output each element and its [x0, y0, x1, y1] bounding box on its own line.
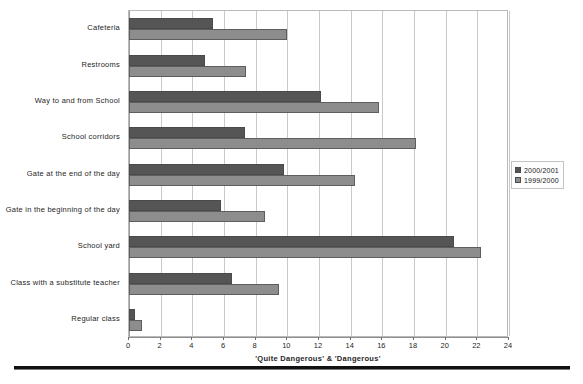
bar [129, 91, 321, 102]
legend-label: 1999/2000 [524, 177, 559, 184]
x-axis-tick-mark [413, 337, 414, 340]
y-axis-label: School corridors [0, 132, 120, 141]
x-axis-tick-label: 20 [435, 341, 455, 350]
x-axis-tick-label: 2 [150, 341, 170, 350]
bar-group [129, 18, 507, 40]
bar [129, 175, 355, 186]
x-axis-tick-label: 6 [213, 341, 233, 350]
bar [129, 164, 284, 175]
x-axis-tick-mark [223, 337, 224, 340]
x-axis-tick-mark [476, 337, 477, 340]
y-axis-label: Way to and from School [0, 96, 120, 105]
bar [129, 211, 265, 222]
legend-swatch-icon [515, 167, 521, 173]
bar [129, 273, 232, 284]
y-axis-category-labels: CafeteriaRestroomsWay to and from School… [0, 10, 124, 337]
x-axis-tick-label: 12 [308, 341, 328, 350]
y-axis-label: School yard [0, 241, 120, 250]
x-axis-tick-mark [350, 337, 351, 340]
x-axis-tick-mark [318, 337, 319, 340]
x-axis-tick-mark [445, 337, 446, 340]
x-axis-tick-label: 16 [371, 341, 391, 350]
x-axis-tick-mark [191, 337, 192, 340]
legend-item[interactable]: 1999/2000 [515, 175, 559, 185]
legend-item[interactable]: 2000/2001 [515, 165, 559, 175]
x-axis-tick-label: 8 [245, 341, 265, 350]
page-bottom-rule-shadow [14, 369, 570, 370]
bar [129, 236, 454, 247]
bar [129, 29, 287, 40]
x-axis-title: 'Quite Dangerous' & 'Dangerous' [128, 354, 508, 363]
y-axis-label: Cafeteria [0, 23, 120, 32]
bar [129, 102, 379, 113]
bar-group [129, 309, 507, 331]
bar-group [129, 200, 507, 222]
bars-layer [129, 11, 507, 336]
x-axis-tick-mark [160, 337, 161, 340]
bar-group [129, 91, 507, 113]
bar [129, 200, 221, 211]
bar-group [129, 273, 507, 295]
x-axis-tick-label: 14 [340, 341, 360, 350]
bar [129, 138, 416, 149]
bar [129, 309, 135, 320]
bar-group [129, 164, 507, 186]
x-axis-tick-label: 10 [276, 341, 296, 350]
y-axis-label: Gate in the beginning of the day [0, 205, 120, 214]
x-axis-tick-label: 24 [498, 341, 518, 350]
bar-group [129, 55, 507, 77]
bar [129, 55, 205, 66]
bar-group [129, 127, 507, 149]
bar-chart: CafeteriaRestroomsWay to and from School… [0, 0, 583, 384]
x-axis-tick-labels: 024681012141618202224 [128, 340, 508, 354]
plot-area [128, 10, 508, 337]
x-axis-tick-mark [508, 337, 509, 340]
legend-label: 2000/2001 [524, 167, 559, 174]
x-axis-tick-label: 4 [181, 341, 201, 350]
x-axis-tick-label: 0 [118, 341, 138, 350]
bar [129, 247, 481, 258]
x-axis-tick-label: 22 [466, 341, 486, 350]
legend: 2000/20011999/2000 [511, 161, 564, 189]
bar [129, 320, 142, 331]
bar [129, 66, 246, 77]
x-axis-tick-label: 18 [403, 341, 423, 350]
bar-group [129, 236, 507, 258]
y-axis-label: Gate at the end of the day [0, 169, 120, 178]
x-axis-tick-mark [128, 337, 129, 340]
legend-swatch-icon [515, 177, 521, 183]
x-axis-tick-mark [381, 337, 382, 340]
y-axis-label: Regular class [0, 314, 120, 323]
x-axis-tick-mark [255, 337, 256, 340]
x-axis-tick-mark [286, 337, 287, 340]
y-axis-label: Class with a substitute teacher [0, 278, 120, 287]
y-axis-label: Restrooms [0, 60, 120, 69]
bar [129, 127, 245, 138]
gridline-24 [509, 11, 510, 336]
bar [129, 284, 279, 295]
bar [129, 18, 213, 29]
